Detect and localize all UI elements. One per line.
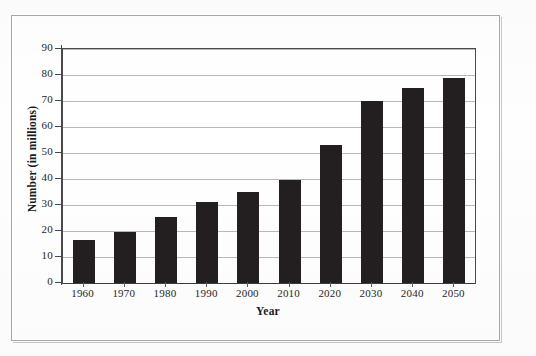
y-axis-tick [55, 126, 62, 127]
x-axis-tick-label: 2030 [348, 287, 394, 299]
bar [237, 192, 259, 283]
plot-area [62, 48, 476, 284]
y-axis-tick-label: 60 [23, 120, 53, 131]
x-axis-tick-label: 1960 [60, 287, 106, 299]
x-axis-tick-label: 2020 [307, 287, 353, 299]
y-axis-tick-label: 40 [23, 172, 53, 183]
bar [196, 202, 218, 283]
x-axis-tick-label: 1980 [142, 287, 188, 299]
y-axis-tick-label: 70 [23, 94, 53, 105]
y-axis-tick-label: 10 [23, 250, 53, 261]
y-axis-tick [55, 74, 62, 75]
y-axis-tick [55, 256, 62, 257]
y-axis-tick [55, 48, 62, 49]
x-axis-title: Year [62, 305, 474, 317]
bar [361, 101, 383, 283]
x-axis-tick-label: 2050 [430, 287, 476, 299]
bar [443, 78, 465, 283]
bar [320, 145, 342, 283]
y-axis-tick-label: 20 [23, 224, 53, 235]
y-axis-tick-label: 50 [23, 146, 53, 157]
y-axis-tick-label: 80 [23, 68, 53, 79]
bar [155, 217, 177, 283]
y-axis-tick-labels: 0102030405060708090 [17, 15, 53, 341]
y-axis-tick-label: 90 [23, 42, 53, 53]
bar-chart: Number (in millions) 0102030405060708090… [11, 15, 500, 341]
x-axis-tick-label: 2000 [224, 287, 270, 299]
bar [73, 240, 95, 283]
y-axis-tick [55, 100, 62, 101]
y-axis-tick [55, 152, 62, 153]
scanned-page: Number (in millions) 0102030405060708090… [0, 0, 536, 356]
x-axis-tick-label: 2010 [266, 287, 312, 299]
x-axis-tick-label: 1970 [101, 287, 147, 299]
bar [114, 232, 136, 283]
y-axis-tick [55, 204, 62, 205]
y-axis-tick [55, 178, 62, 179]
bar [402, 88, 424, 283]
x-axis-tick-label: 2040 [389, 287, 435, 299]
bar [279, 180, 301, 283]
bar-series [63, 49, 475, 283]
y-axis-tick-label: 30 [23, 198, 53, 209]
gridline [63, 283, 475, 284]
x-axis-tick-label: 1990 [183, 287, 229, 299]
y-axis-tick [55, 282, 62, 283]
y-axis-tick-label: 0 [23, 276, 53, 287]
y-axis-tick [55, 230, 62, 231]
